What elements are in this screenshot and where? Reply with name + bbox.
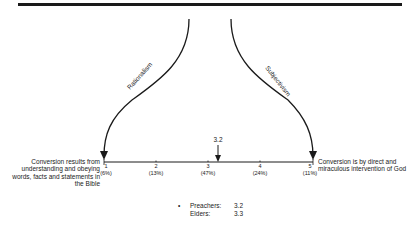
legend-row-elders: Elders: 3.3: [178, 210, 243, 218]
legend-name: Elders:: [190, 210, 234, 218]
right-pole-description: Conversion is by direct and miraculous i…: [318, 158, 414, 173]
scale-tick-3: 3 (47%): [193, 163, 223, 176]
rationalism-label: Rationalism: [126, 61, 154, 91]
legend-value: 3.3: [234, 210, 243, 218]
tick-percent: (6%): [91, 170, 121, 177]
legend: • Preachers: 3.2 Elders: 3.3: [178, 202, 243, 218]
scale-tick-1: 1 (6%): [91, 163, 121, 176]
scale-tick-5: 5 (11%): [295, 163, 325, 176]
tick-percent: (13%): [141, 170, 171, 177]
rationalism-arrowhead-icon: [100, 151, 108, 160]
rationalism-curve: [104, 19, 189, 156]
mean-marker-arrowhead-icon: [215, 155, 221, 162]
legend-value: 3.2: [234, 202, 243, 210]
diagram-curves: Rationalism Subjectivism: [0, 0, 416, 234]
mean-marker-value: 3.2: [208, 136, 228, 143]
tick-percent: (24%): [245, 170, 275, 177]
subjectivism-arrowhead-icon: [309, 151, 317, 160]
scale-tick-4: 4 (24%): [245, 163, 275, 176]
legend-row-preachers: • Preachers: 3.2: [178, 202, 243, 210]
legend-name: Preachers:: [190, 202, 234, 210]
bullet-icon: •: [178, 202, 190, 210]
left-pole-description: Conversion results from understanding an…: [2, 158, 100, 188]
subjectivism-curve: [231, 19, 313, 156]
tick-percent: (11%): [295, 170, 325, 177]
tick-percent: (47%): [193, 170, 223, 177]
scale-tick-2: 2 (13%): [141, 163, 171, 176]
